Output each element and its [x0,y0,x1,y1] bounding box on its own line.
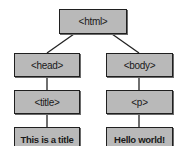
node-p: <p> [106,90,173,114]
node-p-label: <p> [131,97,147,108]
node-body: <body> [106,53,173,77]
node-title: <title> [14,90,80,114]
edge-html-head [47,34,74,53]
edge-html-body [112,34,139,53]
node-head-label: <head> [31,60,63,71]
node-title-label: <title> [34,97,59,108]
node-body-label: <body> [124,60,156,71]
node-title-text: This is a title [14,127,80,146]
node-p-text-label: Hello world! [114,134,165,145]
node-p-text: Hello world! [106,127,173,146]
node-html: <html> [59,9,127,34]
node-title-text-label: This is a title [20,134,73,145]
node-html-label: <html> [79,16,108,27]
node-head: <head> [14,53,80,77]
